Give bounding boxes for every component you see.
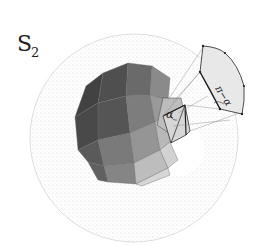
vertex-dot: [219, 108, 221, 110]
vertex-dot: [224, 52, 226, 54]
vertex-dot: [243, 85, 245, 87]
vertex-dot: [241, 113, 243, 115]
diagram-canvas: α π−α S 2: [0, 0, 263, 246]
sphere-polyhedron-diagram: α π−α S 2: [0, 0, 263, 246]
sphere-label-s: S: [17, 31, 32, 56]
sphere-label-subscript: 2: [31, 45, 39, 60]
vertex-dot: [199, 71, 201, 73]
vertex-dot: [202, 45, 204, 47]
sphere-label: S 2: [17, 31, 39, 60]
alpha-angle-label: α: [166, 108, 174, 121]
